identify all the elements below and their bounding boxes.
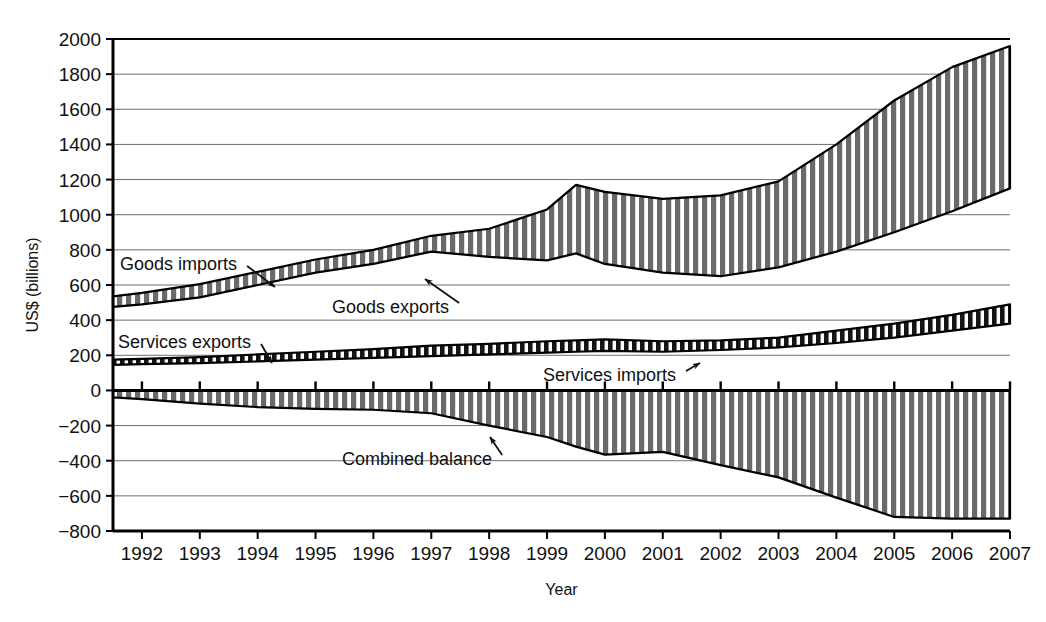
annotation-goods-imports: Goods imports [120,254,237,274]
x-tick-label: 1996 [352,543,394,564]
chart-figure: −800−600−400−200020040060080010001200140… [0,0,1046,622]
x-tick-label: 1998 [468,543,510,564]
trade-balance-chart: −800−600−400−200020040060080010001200140… [0,0,1046,622]
y-tick-label: 1000 [59,205,101,226]
x-tick-label: 2000 [584,543,626,564]
y-tick-label: 1400 [59,134,101,155]
y-tick-label: 1800 [59,64,101,85]
y-tick-label: 400 [69,310,101,331]
x-tick-label: 1994 [237,543,280,564]
y-tick-label: 1600 [59,99,101,120]
x-tick-label: 1992 [121,543,163,564]
y-tick-label: −200 [58,416,101,437]
data-bands [113,46,1010,519]
annotation-services-imports: Services imports [543,365,676,385]
y-tick-label: −800 [58,521,101,542]
x-tick-label: 2002 [700,543,742,564]
y-tick-label: 600 [69,275,101,296]
band-goods [113,46,1010,307]
y-tick-label: 1200 [59,170,101,191]
x-tick-label: 1999 [526,543,568,564]
x-tick-label: 1995 [294,543,336,564]
x-tick-label: 1993 [179,543,221,564]
y-tick-label: −400 [58,451,101,472]
band-combined-balance [113,390,1010,518]
x-tick-label: 2004 [815,543,858,564]
y-axis-title: US$ (billions) [24,237,41,332]
annotation-goods-exports: Goods exports [332,297,449,317]
x-tick-label: 2001 [642,543,684,564]
y-tick-label: 200 [69,345,101,366]
x-axis-title: Year [545,581,578,598]
x-tick-label: 2006 [931,543,973,564]
annotation-services-exports: Services exports [118,332,251,352]
y-tick-label: 0 [90,380,101,401]
x-tick-label: 2007 [989,543,1031,564]
x-tick-label: 2003 [757,543,799,564]
x-tick-label: 2005 [873,543,915,564]
y-tick-label: 2000 [59,29,101,50]
x-tick-label: 1997 [410,543,452,564]
y-tick-label: 800 [69,240,101,261]
annotation-combined-balance: Combined balance [342,449,492,469]
y-tick-label: −600 [58,486,101,507]
annotation-arrow-services-imports [686,363,700,371]
